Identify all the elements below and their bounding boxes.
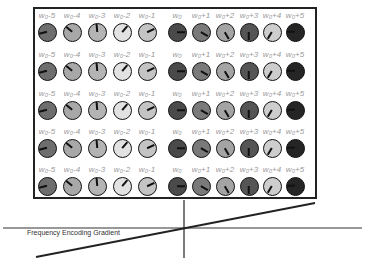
gradient-caption: Frequency Encoding Gradient bbox=[27, 229, 120, 236]
gradient-axes bbox=[0, 0, 367, 268]
